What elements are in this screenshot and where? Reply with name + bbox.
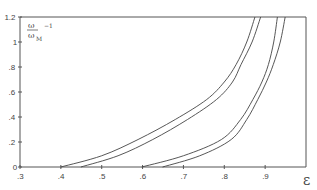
y-tick-label: .8 <box>9 63 16 72</box>
x-tick-label: .9 <box>262 172 269 181</box>
curves <box>61 17 285 167</box>
x-tick-label: .6 <box>140 172 147 181</box>
y-label-numerator: ω <box>28 21 35 30</box>
series-line-curve-3 <box>142 17 278 167</box>
y-tick-label: 1 <box>13 38 18 47</box>
y-axis-label: ω ω M −1 <box>27 21 53 42</box>
y-tick-label: 1.2 <box>4 13 16 22</box>
series-line-curve-2 <box>81 17 261 167</box>
y-tick-label: .2 <box>9 138 16 147</box>
axes <box>20 17 306 167</box>
y-label-denominator: ω <box>28 31 35 40</box>
chart: .3.4.5.6.7.8.9 0.2.4.6.811.2 ω ω M −1 ε <box>0 0 317 190</box>
y-ticks: 0.2.4.6.811.2 <box>4 13 22 172</box>
x-tick-label: .5 <box>99 172 106 181</box>
x-axis-label: ε <box>303 172 310 188</box>
x-tick-label: .4 <box>58 172 65 181</box>
x-tick-label: .7 <box>180 172 187 181</box>
x-tick-label: .3 <box>17 172 24 181</box>
y-tick-label: .4 <box>9 113 16 122</box>
x-tick-label: .8 <box>221 172 228 181</box>
y-tick-label: 0 <box>13 163 18 172</box>
series-line-curve-1 <box>61 17 255 167</box>
y-label-subscript: M <box>36 35 42 42</box>
y-label-suffix: −1 <box>44 22 53 29</box>
y-tick-label: .6 <box>9 88 16 97</box>
